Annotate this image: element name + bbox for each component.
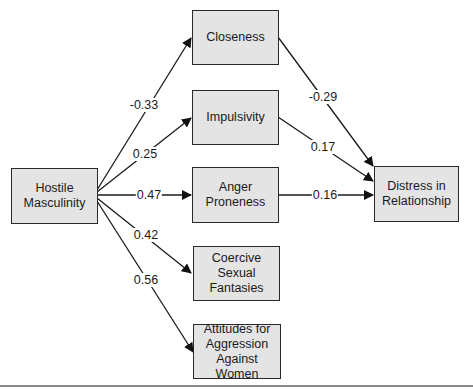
coef-hostile-anger: 0.47 [136,188,162,202]
node-impulsivity: Impulsivity [192,90,279,145]
coef-anger-distress: 0.16 [312,188,338,202]
node-distress-in-relationship: Distress in Relationship [374,166,459,222]
node-coercive-sexual-fantasies: Coercive Sexual Fantasies [193,246,280,301]
node-attitudes-aggression: Attitudes for Aggression Against Women [193,324,281,379]
coef-impulsivity-distress: 0.17 [310,140,336,154]
coef-hostile-attitudes: 0.56 [133,273,159,287]
coef-hostile-closeness: -0.33 [129,98,160,112]
coef-hostile-impulsivity: 0.25 [132,147,158,161]
edge-hostile-closeness [97,38,191,190]
bottom-rule [0,385,473,387]
coef-closeness-distress: -0.29 [308,90,339,104]
node-closeness: Closeness [192,10,279,65]
coef-hostile-coercive: 0.42 [133,228,159,242]
node-anger-proneness: Anger Proneness [192,167,279,223]
node-hostile-masculinity: Hostile Masculinity [11,168,98,224]
